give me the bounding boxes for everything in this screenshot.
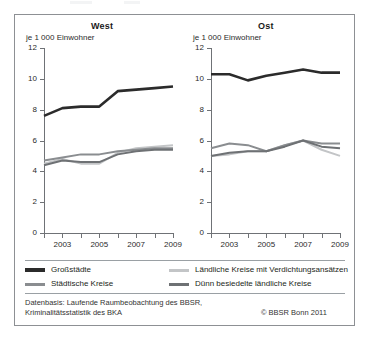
x-tick-label-west: 2005: [86, 240, 112, 249]
figure-root: West je 1 000 Einwohner 12 10 8 6 4 2 0: [0, 0, 371, 342]
x-tick-ost: [340, 233, 341, 238]
x-tick-label-west: 2003: [49, 240, 75, 249]
x-tick-label-west: 2007: [123, 240, 149, 249]
legend-separator-top: [25, 260, 345, 261]
chart-title-ost: Ost: [258, 21, 274, 31]
plot-area-west: 12 10 8 6 4 2 0 2003 2005 2007 2009: [44, 48, 173, 233]
x-tick-label-ost: 2009: [327, 240, 353, 249]
chart-panel: West je 1 000 Einwohner 12 10 8 6 4 2 0: [14, 14, 355, 326]
y-tick-label-west: 10: [23, 74, 37, 83]
series-lines-west: [44, 48, 173, 234]
axis-unit-ost: je 1 000 Einwohner: [193, 33, 262, 42]
legend-swatch-laendliche-kreise-verdichtung: [169, 269, 189, 272]
top-edge-artifact: [70, 1, 92, 4]
legend-label-grossstaedte: Großstädte: [51, 265, 91, 275]
legend-swatch-staedtische-kreise: [25, 283, 45, 286]
x-tick-label-ost: 2003: [216, 240, 242, 249]
legend-item-laendliche-kreise-verdichtung[interactable]: Ländliche Kreise mit Verdichtungsansätze…: [169, 265, 348, 275]
series-line: [44, 87, 173, 116]
legend-item-staedtische-kreise[interactable]: Städtische Kreise: [25, 279, 113, 289]
y-tick-label-ost: 8: [190, 105, 204, 114]
y-tick-label-west: 4: [23, 166, 37, 175]
legend-label-duenn-besiedelte: Dünn besiedelte ländliche Kreise: [195, 279, 312, 289]
y-tick-label-ost: 0: [190, 228, 204, 237]
x-tick-west: [173, 233, 174, 238]
y-tick-label-ost: 4: [190, 166, 204, 175]
y-tick-label-west: 2: [23, 197, 37, 206]
y-tick-label-ost: 6: [190, 136, 204, 145]
y-tick-label-ost: 10: [190, 74, 204, 83]
copyright-note: © BBSR Bonn 2011: [261, 308, 327, 317]
legend-item-grossstaedte[interactable]: Großstädte: [25, 265, 91, 275]
y-tick-label-west: 6: [23, 136, 37, 145]
y-tick-label-west: 0: [23, 228, 37, 237]
chart-title-west: West: [91, 21, 113, 31]
source-note: Datenbasis: Laufende Raumbeobachtung des…: [25, 298, 255, 318]
series-line: [211, 70, 340, 81]
legend-swatch-duenn-besiedelte: [169, 283, 189, 286]
legend: Großstädte Städtische Kreise Ländliche K…: [25, 265, 347, 293]
x-tick-label-ost: 2005: [253, 240, 279, 249]
legend-label-staedtische-kreise: Städtische Kreise: [51, 279, 113, 289]
y-tick-label-west: 12: [23, 43, 37, 52]
y-tick-label-ost: 12: [190, 43, 204, 52]
y-tick-label-west: 8: [23, 105, 37, 114]
legend-separator-bottom: [25, 293, 345, 294]
x-tick-label-ost: 2007: [290, 240, 316, 249]
axis-unit-west: je 1 000 Einwohner: [26, 33, 95, 42]
x-tick-label-west: 2009: [160, 240, 186, 249]
y-tick-label-ost: 2: [190, 197, 204, 206]
legend-label-laendliche-kreise-verdichtung: Ländliche Kreise mit Verdichtungsansätze…: [195, 265, 348, 275]
top-edge-artifact-2: [124, 1, 140, 4]
legend-item-duenn-besiedelte[interactable]: Dünn besiedelte ländliche Kreise: [169, 279, 312, 289]
plot-area-ost: 12 10 8 6 4 2 0 2003 2005 2007 2009: [211, 48, 340, 233]
legend-swatch-grossstaedte: [25, 268, 45, 272]
series-lines-ost: [211, 48, 340, 234]
